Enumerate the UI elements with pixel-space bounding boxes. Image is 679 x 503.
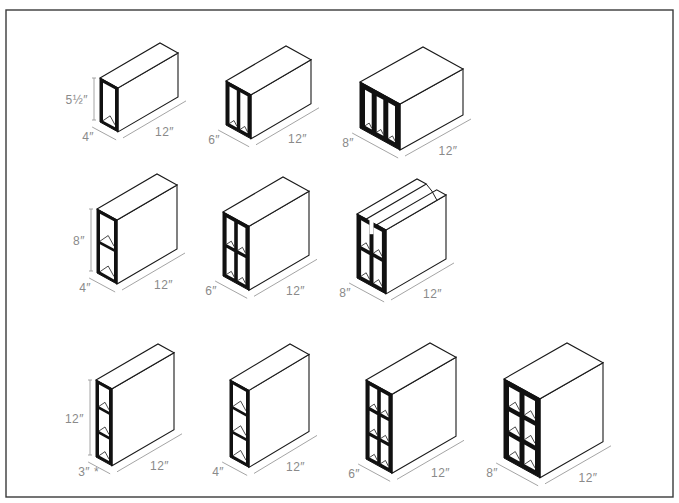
block-b6: 8″12″: [339, 179, 454, 302]
block-b7: 3″ *12″12″: [65, 344, 182, 479]
length-label: 12″: [579, 471, 598, 485]
length-label: 12″: [439, 144, 458, 158]
width-label: 6″: [348, 467, 360, 481]
block-b9: 6″12″: [348, 343, 464, 481]
block-b10: 8″12″: [486, 343, 611, 486]
width-label: 4″: [82, 130, 94, 144]
length-label: 12″: [423, 287, 442, 301]
length-label: 12″: [155, 125, 174, 139]
height-label: 5½″: [66, 93, 89, 107]
length-label: 12″: [431, 466, 450, 480]
height-label: 8″: [73, 234, 85, 248]
width-label: 3″ *: [78, 465, 99, 479]
blocks-group: 4″12″5½″6″12″8″12″4″12″8″6″12″8″12″3″ *1…: [65, 43, 611, 486]
block-b4: 4″12″8″: [73, 174, 185, 295]
block-b2: 6″12″: [208, 46, 319, 147]
width-label: 6″: [205, 284, 217, 298]
length-label: 12″: [286, 460, 305, 474]
channel-opening: [370, 220, 374, 234]
block-sizes-diagram: 4″12″5½″6″12″8″12″4″12″8″6″12″8″12″3″ *1…: [0, 0, 679, 503]
block-b8: 4″12″: [212, 344, 317, 479]
block-b5: 6″12″: [205, 177, 317, 298]
length-label: 12″: [286, 284, 305, 298]
length-label: 12″: [154, 278, 173, 292]
block-b3: 8″12″: [342, 47, 471, 158]
diagram-canvas: 4″12″5½″6″12″8″12″4″12″8″6″12″8″12″3″ *1…: [0, 0, 679, 503]
width-label: 8″: [486, 466, 498, 480]
block-cell: [103, 83, 115, 128]
width-label: 4″: [79, 281, 91, 295]
width-label: 6″: [208, 133, 220, 147]
width-label: 8″: [339, 286, 351, 300]
width-label: 4″: [212, 465, 224, 479]
length-label: 12″: [288, 132, 307, 146]
width-label: 8″: [342, 136, 354, 150]
length-label: 12″: [150, 459, 169, 473]
height-label: 12″: [65, 412, 84, 426]
block-b1: 4″12″5½″: [66, 43, 186, 144]
